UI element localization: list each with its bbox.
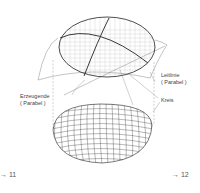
leitlinie-label-line2: ( Parabel ) <box>161 79 187 86</box>
page-ref-left[interactable]: → 11 <box>0 171 16 178</box>
erzeugende-curve <box>84 18 109 76</box>
page-ref-right-text: → 12 <box>172 171 189 178</box>
projection-lines <box>53 60 154 130</box>
erzeugende-label: Erzeugende ( Parabel ) <box>20 93 50 106</box>
page-ref-left-text: → 11 <box>0 171 16 178</box>
erzeugende-label-line1: Erzeugende <box>20 93 50 100</box>
parabolic-sheet <box>38 38 167 95</box>
top-circle <box>59 17 155 77</box>
kreis-label: Kreis <box>161 97 174 104</box>
page-ref-right[interactable]: → 12 <box>172 171 189 178</box>
erzeugende-label-line2: ( Parabel ) <box>20 100 50 107</box>
kreis-label-text: Kreis <box>161 97 174 103</box>
dome-grid <box>40 100 165 167</box>
leitlinie-label: Leitlinie ( Parabel ) <box>161 72 187 85</box>
upper-surface-grid <box>55 15 160 80</box>
